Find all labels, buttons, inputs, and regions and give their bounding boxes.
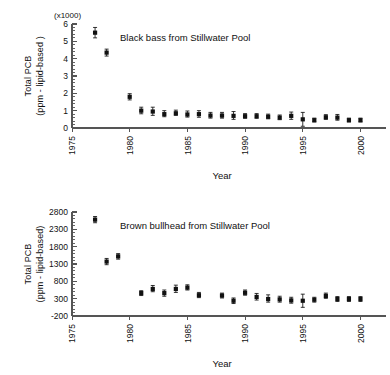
y-axis-multiplier-label: (x1000) bbox=[54, 11, 81, 20]
data-point-marker bbox=[347, 118, 351, 122]
y-tick-label: 2 bbox=[63, 88, 68, 98]
data-point-marker bbox=[208, 113, 212, 117]
y-tick-label: 3 bbox=[63, 71, 68, 81]
y-tick-label: 300 bbox=[54, 294, 68, 304]
data-point-marker bbox=[266, 115, 270, 119]
y-tick-label: 2300 bbox=[49, 224, 68, 234]
chart-panel-brown-bullhead: -200300800130018002300280019751980198519… bbox=[0, 188, 390, 375]
chart-title-brown-bullhead: Brown bullhead from Stillwater Pool bbox=[120, 220, 270, 231]
data-point-marker bbox=[220, 293, 224, 297]
figure-container: 0123456197519801985199019952000 (x1000) … bbox=[0, 0, 390, 375]
data-point-marker bbox=[139, 291, 143, 295]
x-tick-label: 1995 bbox=[298, 324, 308, 343]
data-point-marker bbox=[335, 297, 339, 301]
x-tick-label: 1995 bbox=[298, 136, 308, 155]
x-axis-label-year: Year bbox=[213, 358, 232, 369]
x-tick-label: 2000 bbox=[356, 324, 366, 343]
data-point-marker bbox=[231, 114, 235, 118]
data-point-marker bbox=[174, 111, 178, 115]
plot-area-brown-bullhead: -200300800130018002300280019751980198519… bbox=[0, 188, 390, 375]
y-tick-label: 800 bbox=[54, 276, 68, 286]
x-tick-label: 1980 bbox=[125, 324, 135, 343]
y-tick-label: 5 bbox=[63, 36, 68, 46]
data-point-marker bbox=[312, 298, 316, 302]
scatter-plot-brown-bullhead: -200300800130018002300280019751980198519… bbox=[0, 188, 390, 375]
data-point-marker bbox=[289, 114, 293, 118]
data-point-marker bbox=[139, 109, 143, 113]
data-point-marker bbox=[162, 112, 166, 116]
y-tick-label: 6 bbox=[63, 19, 68, 29]
x-tick-label: 1975 bbox=[67, 324, 77, 343]
data-point-marker bbox=[278, 116, 282, 120]
data-point-marker bbox=[243, 291, 247, 295]
data-point-marker bbox=[335, 116, 339, 120]
y-tick-label: 4 bbox=[63, 54, 68, 64]
data-point-marker bbox=[174, 287, 178, 291]
data-point-marker bbox=[312, 118, 316, 122]
data-point-marker bbox=[197, 112, 201, 116]
data-point-marker bbox=[185, 112, 189, 116]
chart-panel-black-bass: 0123456197519801985199019952000 (x1000) … bbox=[0, 0, 390, 187]
y-axis-label-primary: Total PCB bbox=[23, 56, 33, 97]
data-point-marker bbox=[347, 297, 351, 301]
data-point-marker bbox=[197, 293, 201, 297]
data-point-marker bbox=[289, 298, 293, 302]
data-point-marker bbox=[93, 218, 97, 222]
y-tick-label: 1800 bbox=[49, 242, 68, 252]
data-point-marker bbox=[93, 31, 97, 35]
x-tick-label: 1990 bbox=[240, 136, 250, 155]
x-tick-label: 1990 bbox=[240, 324, 250, 343]
y-tick-label: 0 bbox=[63, 123, 68, 133]
data-point-marker bbox=[128, 95, 132, 99]
data-point-marker bbox=[255, 114, 259, 118]
data-point-marker bbox=[243, 114, 247, 118]
x-tick-label: 1980 bbox=[125, 136, 135, 155]
data-point-marker bbox=[301, 299, 305, 303]
data-point-marker bbox=[358, 118, 362, 122]
data-point-marker bbox=[266, 297, 270, 301]
data-point-marker bbox=[185, 285, 189, 289]
data-point-marker bbox=[116, 254, 120, 258]
data-point-marker bbox=[105, 51, 109, 55]
y-tick-label: 1 bbox=[63, 106, 68, 116]
x-axis-label-year: Year bbox=[213, 170, 232, 181]
y-axis-label-primary: Total PCB bbox=[23, 244, 33, 285]
data-point-marker bbox=[231, 299, 235, 303]
data-point-marker bbox=[105, 259, 109, 263]
data-point-marker bbox=[278, 297, 282, 301]
x-tick-label: 1985 bbox=[183, 324, 193, 343]
x-tick-label: 2000 bbox=[356, 136, 366, 155]
y-tick-label: -200 bbox=[51, 311, 68, 321]
data-point-marker bbox=[255, 295, 259, 299]
data-point-marker bbox=[220, 113, 224, 117]
plot-area-black-bass: 0123456197519801985199019952000 (x1000) … bbox=[0, 0, 390, 187]
y-axis-label-units: (ppm - lipid-based ) bbox=[35, 36, 45, 116]
data-point-marker bbox=[162, 291, 166, 295]
x-tick-label: 1985 bbox=[183, 136, 193, 155]
data-point-marker bbox=[151, 109, 155, 113]
data-point-marker bbox=[324, 294, 328, 298]
y-axis-label-units: (ppm - lipid-based) bbox=[35, 226, 45, 303]
y-tick-label: 2800 bbox=[49, 207, 68, 217]
scatter-plot-black-bass: 0123456197519801985199019952000 bbox=[0, 0, 390, 187]
chart-title-black-bass: Black bass from Stillwater Pool bbox=[120, 32, 250, 43]
y-tick-label: 1300 bbox=[49, 259, 68, 269]
data-point-marker bbox=[324, 115, 328, 119]
x-tick-label: 1975 bbox=[67, 136, 77, 155]
data-point-marker bbox=[151, 287, 155, 291]
data-point-marker bbox=[301, 117, 305, 121]
data-point-marker bbox=[358, 297, 362, 301]
